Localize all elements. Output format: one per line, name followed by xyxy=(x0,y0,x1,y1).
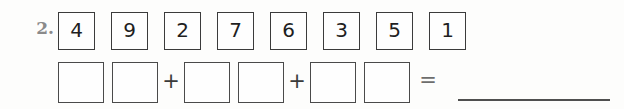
answer-box-2-tens[interactable] xyxy=(184,62,230,103)
digit-value: 5 xyxy=(388,20,401,40)
answer-box-3-ones[interactable] xyxy=(364,62,410,103)
plus-operator-1: + xyxy=(158,71,184,92)
digit-value: 2 xyxy=(176,20,189,40)
digit-value: 6 xyxy=(282,20,295,40)
digit-box-6[interactable]: 3 xyxy=(323,12,360,50)
equals-operator: = xyxy=(416,70,440,91)
digit-value: 9 xyxy=(123,20,136,40)
plus-operator-2: + xyxy=(284,71,310,92)
problem-number-label: 2. xyxy=(28,18,54,38)
equation-row: + + = xyxy=(58,60,440,105)
answer-box-1-ones[interactable] xyxy=(112,62,158,103)
digit-box-4[interactable]: 7 xyxy=(217,12,254,50)
worksheet-problem: 2. 4 9 2 7 6 3 5 1 + xyxy=(0,0,624,109)
digit-box-8[interactable]: 1 xyxy=(429,12,466,50)
digit-box-2[interactable]: 9 xyxy=(111,12,148,50)
digit-value: 1 xyxy=(441,20,454,40)
digit-box-5[interactable]: 6 xyxy=(270,12,307,50)
answer-blank-line[interactable] xyxy=(458,99,610,101)
digit-value: 7 xyxy=(229,20,242,40)
answer-box-2-ones[interactable] xyxy=(238,62,284,103)
digit-value: 3 xyxy=(335,20,348,40)
digit-row: 4 9 2 7 6 3 5 1 xyxy=(58,11,466,51)
digit-box-7[interactable]: 5 xyxy=(376,12,413,50)
answer-box-3-tens[interactable] xyxy=(310,62,356,103)
digit-value: 4 xyxy=(70,20,83,40)
digit-box-1[interactable]: 4 xyxy=(58,12,95,50)
answer-box-1-tens[interactable] xyxy=(58,62,104,103)
digit-box-3[interactable]: 2 xyxy=(164,12,201,50)
